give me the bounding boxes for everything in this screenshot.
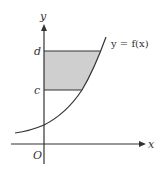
origin-label: O <box>33 149 42 162</box>
label-c: c <box>34 84 40 97</box>
x-axis-label: x <box>148 138 155 151</box>
y-axis-label: y <box>39 10 47 23</box>
diagram: y x O d c y = f(x) <box>0 0 162 171</box>
y-axis-arrow-icon <box>41 24 47 31</box>
x-axis-arrow-icon <box>139 141 146 147</box>
shaded-region <box>44 51 100 90</box>
label-d: d <box>34 45 41 58</box>
curve-label: y = f(x) <box>110 38 149 49</box>
